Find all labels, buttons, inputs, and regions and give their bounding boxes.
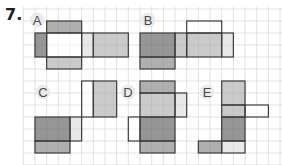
net-label: A — [33, 13, 42, 28]
net-face — [47, 21, 82, 33]
net-face — [35, 141, 70, 153]
net-label: D — [123, 85, 132, 100]
net-face — [140, 81, 175, 93]
net-face — [47, 57, 82, 69]
net-d: D — [121, 81, 187, 153]
cube-nets-figure: ABCDE — [0, 0, 282, 165]
net-c: C — [35, 81, 117, 153]
net-face — [82, 81, 94, 117]
nets-group: ABCDE — [30, 13, 269, 154]
net-face — [187, 21, 222, 33]
net-face — [140, 141, 175, 153]
net-face — [140, 57, 175, 69]
net-label: C — [38, 85, 47, 100]
net-label: E — [203, 85, 212, 100]
net-label: B — [144, 13, 153, 28]
